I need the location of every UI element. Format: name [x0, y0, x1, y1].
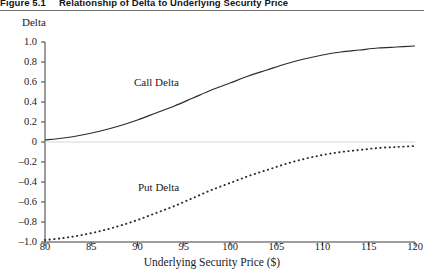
x-tick-label: 90 — [132, 241, 143, 252]
x-tick-label: 105 — [268, 241, 284, 252]
y-tick-label: 1.0 — [0, 37, 37, 47]
x-tick-label: 115 — [361, 241, 376, 252]
x-tick-label: 110 — [315, 241, 330, 252]
y-tick-label: –0.8 — [0, 217, 37, 227]
y-tick-label: –0.6 — [0, 197, 37, 207]
y-axis-tick-labels: 1.00.80.60.40.20–0.2–0.4–0.6–0.8–1.0 — [0, 0, 37, 277]
series-annotation-put-delta: Put Delta — [138, 181, 179, 193]
y-tick-label: 0.2 — [0, 117, 37, 127]
x-tick-label: 80 — [40, 241, 51, 252]
chart-plot — [0, 0, 424, 277]
y-tick-label: –0.2 — [0, 157, 37, 167]
x-axis-title: Underlying Security Price ($) — [0, 256, 424, 268]
x-tick-label: 85 — [86, 241, 97, 252]
x-axis-tick-labels: 80859095100105110115120 — [0, 241, 424, 255]
y-tick-label: 0.4 — [0, 97, 37, 107]
chart-axes — [41, 42, 415, 246]
x-tick-label: 100 — [222, 241, 238, 252]
y-tick-label: 0.6 — [0, 77, 37, 87]
series-line-put-delta — [45, 146, 415, 240]
x-tick-label: 120 — [407, 241, 423, 252]
x-tick-label: 95 — [179, 241, 190, 252]
figure-container: Figure 5.1Relationship of Delta to Under… — [0, 0, 424, 277]
series-annotation-call-delta: Call Delta — [134, 76, 179, 88]
chart-series-group — [45, 46, 415, 240]
y-tick-label: 0 — [0, 137, 37, 147]
y-tick-label: –0.4 — [0, 177, 37, 187]
y-tick-label: 0.8 — [0, 57, 37, 67]
series-line-call-delta — [45, 46, 415, 140]
